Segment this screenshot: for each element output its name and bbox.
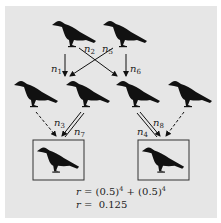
- formula-line-1: r = (0.5)4 + (0.5)4: [76, 185, 166, 197]
- edge-label-n1: n1: [51, 63, 62, 76]
- generation-1-arrows: [65, 48, 126, 76]
- diagram-canvas: n1 n2 n5 n6 n3 n7 n4 n8 r = (0.5)4 + (0.…: [0, 0, 221, 223]
- edge-label-n4: n4: [137, 126, 148, 139]
- parent-crow-2-icon: [66, 81, 110, 107]
- edge-label-n7: n7: [74, 126, 85, 139]
- edge-label-n8: n8: [153, 117, 164, 130]
- parent-crow-3-icon: [116, 81, 160, 107]
- parent-crow-1-icon: [14, 81, 58, 107]
- offspring-crow-2-icon: [142, 148, 184, 173]
- offspring-crow-1-icon: [37, 148, 79, 173]
- grandparent-crow-2-icon: [103, 21, 147, 47]
- edge-label-n2: n2: [84, 43, 95, 56]
- formula-line-2: r = 0.125: [76, 199, 127, 210]
- edge-label-n6: n6: [130, 63, 141, 76]
- edge-label-n3: n3: [54, 117, 65, 130]
- parent-crow-4-icon: [168, 81, 212, 107]
